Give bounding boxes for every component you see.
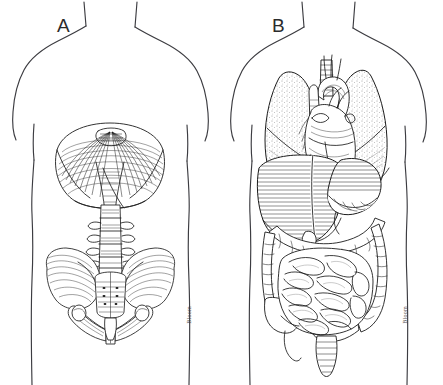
panel-b: B <box>221 0 442 385</box>
panel-b-label: B <box>272 16 285 35</box>
panel-a: A <box>0 0 221 385</box>
anatomical-figure: A <box>0 0 443 385</box>
panel-a-drawing <box>0 0 221 385</box>
panel-a-label: A <box>57 16 70 35</box>
small-intestine-b <box>278 248 373 335</box>
artist-signature-b: Bloom <box>402 306 408 324</box>
diaphragm-a <box>56 123 165 209</box>
artist-signature-a: Bloom <box>186 306 192 324</box>
panel-b-drawing <box>221 0 443 385</box>
